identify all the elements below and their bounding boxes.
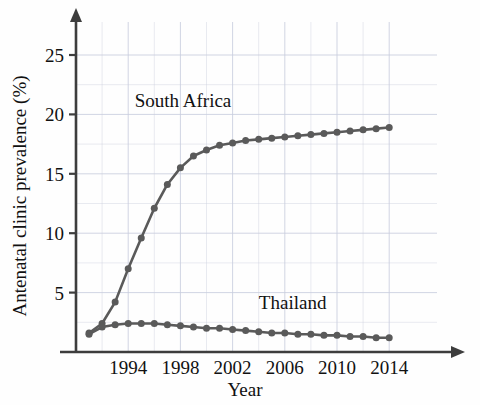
series-line	[89, 127, 389, 333]
y-axis-tick-labels: 510152025	[45, 45, 64, 304]
x-tick-label: 2002	[214, 357, 252, 378]
x-tick-label: 2014	[370, 357, 409, 378]
y-tick-label: 10	[45, 223, 64, 244]
data-point-marker	[216, 325, 223, 332]
series-annotations: South AfricaThailand	[135, 90, 327, 313]
data-point-marker	[268, 135, 275, 142]
data-point-marker	[386, 334, 393, 341]
y-tick-label: 5	[55, 283, 65, 304]
gridlines	[76, 22, 437, 352]
data-point-marker	[294, 132, 301, 139]
data-point-marker	[138, 320, 145, 327]
data-point-marker	[307, 131, 314, 138]
x-tick-label: 1998	[161, 357, 199, 378]
data-point-marker	[334, 129, 341, 136]
series-label-thailand: Thailand	[259, 292, 327, 313]
data-point-marker	[99, 324, 106, 331]
data-point-marker	[151, 205, 158, 212]
data-point-marker	[242, 327, 249, 334]
data-point-marker	[229, 139, 236, 146]
data-point-marker	[203, 147, 210, 154]
data-point-marker	[360, 126, 367, 133]
y-tick-label: 15	[45, 164, 64, 185]
data-point-marker	[125, 320, 132, 327]
x-axis-tick-labels: 199419982002200620102014	[109, 357, 409, 378]
y-tick-label: 20	[45, 104, 64, 125]
data-point-marker	[125, 265, 132, 272]
data-point-marker	[360, 333, 367, 340]
data-point-marker	[268, 329, 275, 336]
series-label-south-africa: South Africa	[135, 90, 232, 111]
data-point-marker	[177, 322, 184, 329]
data-point-marker	[164, 321, 171, 328]
data-point-marker	[138, 234, 145, 241]
chart-container: 510152025 199419982002200620102014 South…	[0, 0, 480, 405]
data-point-marker	[255, 328, 262, 335]
data-point-marker	[151, 320, 158, 327]
line-chart: 510152025 199419982002200620102014 South…	[0, 0, 480, 405]
data-point-marker	[307, 331, 314, 338]
data-point-marker	[320, 332, 327, 339]
data-point-marker	[229, 326, 236, 333]
x-tick-label: 2010	[318, 357, 356, 378]
data-point-marker	[281, 133, 288, 140]
data-point-marker	[347, 128, 354, 135]
x-axis-title: Year	[227, 379, 263, 400]
data-point-marker	[112, 299, 119, 306]
data-point-marker	[347, 333, 354, 340]
data-point-marker	[255, 136, 262, 143]
y-tick-label: 25	[45, 45, 64, 66]
data-point-marker	[190, 324, 197, 331]
data-point-marker	[373, 125, 380, 132]
data-point-marker	[216, 142, 223, 149]
data-point-marker	[203, 325, 210, 332]
data-point-marker	[164, 181, 171, 188]
data-point-marker	[386, 124, 393, 131]
data-point-marker	[112, 321, 119, 328]
data-point-marker	[86, 331, 93, 338]
y-axis-title: Antenatal clinic prevalence (%)	[9, 75, 31, 316]
data-point-marker	[294, 331, 301, 338]
data-point-marker	[177, 164, 184, 171]
data-point-marker	[242, 137, 249, 144]
data-point-marker	[373, 334, 380, 341]
series-line	[89, 323, 389, 337]
x-tick-label: 1994	[109, 357, 148, 378]
data-point-markers	[86, 124, 393, 341]
data-point-marker	[320, 130, 327, 137]
data-point-marker	[190, 152, 197, 159]
x-tick-label: 2006	[266, 357, 304, 378]
data-series-group	[89, 127, 389, 337]
data-point-marker	[281, 329, 288, 336]
data-point-marker	[334, 332, 341, 339]
